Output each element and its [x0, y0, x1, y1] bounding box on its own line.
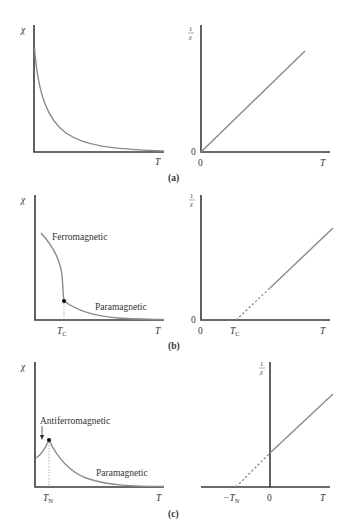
panel-c: χ Antiferromagnetic Paramagnetic TN T 1 … [20, 360, 333, 520]
y-axis [34, 25, 164, 152]
magnetic-susceptibility-figure: χ T 1 χ 0 0 T (a) χ Ferromagn [0, 0, 351, 529]
chi-axis-label: χ [20, 195, 26, 205]
neel-point-marker [47, 438, 51, 442]
linear-inverse-line [270, 394, 333, 453]
t-axis-label: T [320, 326, 326, 336]
axes [201, 195, 330, 320]
paramagnetic-curve [35, 48, 165, 151]
panel-a-inverse-chi-plot: 1 χ 0 0 T [188, 25, 330, 168]
origin-x-label: 0 [267, 493, 272, 503]
neg-tn-tick-label: −TN [223, 493, 240, 504]
origin-y-label: 0 [191, 315, 196, 325]
curie-point-marker [62, 299, 66, 303]
panel-c-inverse-chi-plot: 1 χ −TN 0 T [201, 360, 333, 504]
t-axis-label: T [155, 157, 161, 167]
panel-b: χ Ferromagnetic Paramagnetic TC T 1 χ 0 … [20, 192, 333, 352]
panel-a: χ T 1 χ 0 0 T (a) [20, 25, 330, 184]
extrapolation-dashed-line [236, 453, 270, 487]
panel-c-chi-plot: χ Antiferromagnetic Paramagnetic TN T [20, 362, 164, 504]
t-axis-label: T [320, 158, 326, 168]
t-axis-label: T [155, 326, 161, 336]
ferromagnetic-label: Ferromagnetic [52, 232, 107, 242]
tc-tick-label: TC [57, 326, 67, 337]
arrow-down-icon [40, 435, 44, 440]
inverse-chi-label-den: χ [188, 33, 192, 40]
panel-b-label: (b) [168, 341, 180, 352]
panel-c-label: (c) [168, 509, 179, 520]
t-axis-label: T [320, 493, 326, 503]
inverse-chi-label-den: χ [189, 200, 193, 207]
ferromagnetic-curve [41, 233, 64, 301]
panel-b-inverse-chi-plot: 1 χ 0 0 TC T [189, 192, 333, 337]
paramagnetic-curve [49, 440, 164, 487]
inverse-chi-label-num: 1 [260, 360, 263, 367]
tn-tick-label: TN [43, 493, 53, 504]
panel-a-chi-plot: χ T [20, 25, 164, 167]
paramagnetic-label: Paramagnetic [95, 302, 147, 312]
paramagnetic-label: Paramagnetic [96, 468, 148, 478]
t-axis-label: T [156, 493, 162, 503]
extrapolation-dashed-line [236, 288, 270, 320]
antiferromagnetic-curve [36, 440, 49, 458]
chi-axis-label: χ [20, 362, 26, 372]
panel-b-chi-plot: χ Ferromagnetic Paramagnetic TC T [20, 195, 164, 337]
chi-axis-label: χ [20, 25, 26, 35]
linear-inverse-line [270, 228, 333, 288]
inverse-chi-label-num: 1 [189, 25, 192, 32]
origin-y-label: 0 [191, 147, 196, 157]
panel-a-label: (a) [168, 173, 179, 184]
origin-x-label: 0 [198, 158, 203, 168]
inverse-chi-label-den: χ [259, 368, 263, 375]
origin-x-label: 0 [198, 326, 203, 336]
tc-tick-label: TC [230, 326, 240, 337]
antiferromagnetic-label: Antiferromagnetic [40, 416, 110, 426]
linear-inverse-line [201, 51, 305, 152]
inverse-chi-label-num: 1 [190, 192, 193, 199]
